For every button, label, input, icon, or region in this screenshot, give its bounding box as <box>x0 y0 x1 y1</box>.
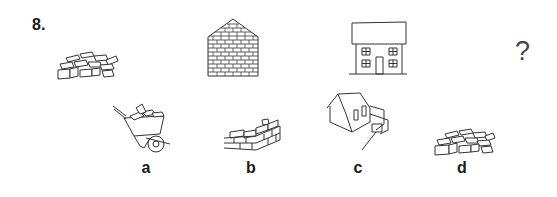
brick-wall-icon <box>207 18 259 78</box>
house-under-construction-icon <box>326 92 394 152</box>
question-number: 8. <box>32 16 45 34</box>
brick-pile-icon <box>56 50 119 80</box>
option-label: a <box>136 159 156 177</box>
house-icon <box>348 22 408 76</box>
wheelbarrow-with-bricks-icon <box>112 102 174 154</box>
question-mark: ? <box>515 36 530 67</box>
option-a[interactable]: a <box>112 100 176 180</box>
option-label: d <box>452 159 472 177</box>
partial-brick-wall-icon <box>222 118 282 152</box>
option-d[interactable]: d <box>430 124 498 180</box>
option-c[interactable]: c <box>324 90 396 180</box>
option-label: b <box>241 159 261 177</box>
option-label: c <box>348 159 368 177</box>
brick-pile-icon <box>433 128 496 156</box>
option-b[interactable]: b <box>220 110 284 180</box>
